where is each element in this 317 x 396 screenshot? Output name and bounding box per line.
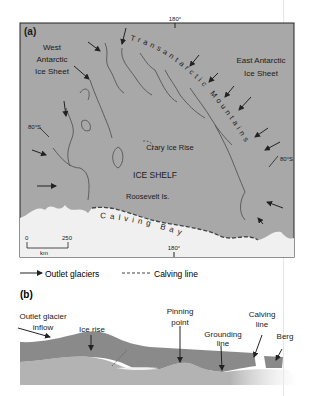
ice-rise-label: Ice rise: [79, 325, 105, 334]
west-antarctic-line-2: Antarctic: [36, 55, 67, 64]
longitude-bottom-label: 180°: [168, 245, 181, 251]
outlet-inflow-line-1: Outlet glacier: [19, 312, 66, 321]
east-antarctic-line-2: Ice Sheet: [244, 69, 279, 78]
legend-outlet-glaciers: Outlet glaciers: [45, 269, 99, 279]
figure: (a) West Antarctic Ice Sheet East Antarc…: [0, 0, 317, 396]
crary-ice-rise-label: Crary Ice Rise: [146, 143, 194, 152]
grounding-line-line-2: line: [217, 339, 230, 348]
scale-unit-label: km: [40, 250, 48, 256]
legend: Outlet glaciers Calving line: [20, 269, 198, 279]
outlet-inflow-line-2: inflow: [33, 323, 54, 332]
calving-line-line-2: line: [256, 320, 269, 329]
roosevelt-island-label: Roosevelt Is.: [126, 192, 169, 201]
latitude-left-label: 80°S: [28, 124, 41, 130]
west-antarctic-line-3: Ice Sheet: [35, 67, 70, 76]
panel-b-label: (b): [20, 289, 33, 300]
west-antarctic-line-1: West: [43, 43, 62, 52]
berg-label: Berg: [277, 332, 294, 341]
pinning-point-line-2: point: [171, 318, 189, 327]
scale-max-label: 250: [62, 235, 73, 241]
cross-section-panel-b: (b): [18, 289, 300, 385]
pinning-point-line-1: Pinning: [167, 307, 194, 316]
ice-shelf-label: ICE SHELF: [133, 170, 177, 180]
latitude-right-label: 80°S: [280, 156, 293, 162]
east-antarctic-line-1: East Antarctic: [237, 56, 286, 65]
legend-calving-line: Calving line: [154, 269, 198, 279]
longitude-top-label: 180°: [169, 16, 182, 22]
panel-a-label: (a): [24, 26, 36, 37]
grounding-line-line-1: Grounding: [204, 330, 241, 339]
calving-line-line-1: Calving: [249, 310, 276, 319]
